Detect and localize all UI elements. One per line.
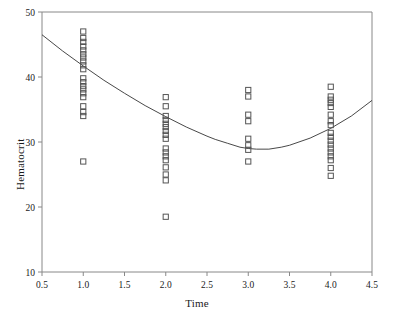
data-point-marker [328,134,333,139]
y-axis-title: Hematocrit [14,139,26,190]
fitted-curve [42,35,372,149]
data-point-marker [246,87,251,92]
y-axis-ticks: 1020304050 [26,8,43,278]
data-point-marker [163,146,168,151]
data-point-marker [81,55,86,60]
data-point-marker [163,136,168,141]
hematocrit-vs-time-chart: 0.51.01.52.02.53.03.54.04.5 1020304050 T… [0,0,394,325]
x-tick-label: 4.5 [366,280,378,290]
data-point-marker [81,29,86,34]
data-point-marker [328,112,333,117]
data-point-marker [328,97,333,102]
x-tick-label: 1.5 [119,280,131,290]
data-point-marker [328,138,333,143]
data-point-marker [328,130,333,135]
data-point-marker [81,84,86,89]
data-point-marker [328,158,333,163]
y-tick-label: 20 [26,203,36,213]
data-point-marker [246,136,251,141]
data-point-marker [163,117,168,122]
data-point-marker [163,121,168,126]
data-point-marker [163,128,168,133]
x-tick-label: 2.0 [160,280,172,290]
plot-frame [42,12,372,272]
x-tick-label: 3.5 [284,280,296,290]
data-point-marker [163,165,168,170]
data-point-marker [163,172,168,177]
x-tick-label: 3.0 [242,280,254,290]
data-point-marker [328,104,333,109]
x-tick-label: 2.5 [201,280,213,290]
data-point-marker [163,214,168,219]
data-point-marker [163,150,168,155]
y-tick-label: 30 [26,138,36,148]
data-point-marker [163,178,168,183]
data-point-marker [81,48,86,53]
data-point-marker [328,100,333,105]
y-tick-label: 50 [26,8,36,18]
data-point-marker [81,59,86,64]
data-point-marker [246,159,251,164]
x-axis-ticks: 0.51.01.52.02.53.03.54.04.5 [36,272,378,290]
data-point-marker [246,119,251,124]
data-point-marker [163,132,168,137]
data-point-marker [163,124,168,129]
x-tick-label: 0.5 [36,280,48,290]
data-point-marker [328,142,333,147]
data-point-marker [81,95,86,100]
y-tick-label: 40 [26,73,36,83]
plot-canvas: 0.51.01.52.02.53.03.54.04.5 1020304050 [0,0,394,325]
scatter-points [81,29,334,219]
y-tick-label: 10 [26,268,36,278]
data-point-marker [163,158,168,163]
x-axis-title: Time [0,297,394,309]
data-point-marker [163,104,168,109]
data-point-marker [246,112,251,117]
data-point-marker [81,52,86,57]
data-point-marker [81,91,86,96]
data-point-marker [81,87,86,92]
data-point-marker [246,94,251,99]
data-point-marker [328,154,333,159]
data-point-marker [81,104,86,109]
data-point-marker [328,84,333,89]
data-point-marker [328,119,333,124]
data-point-marker [163,154,168,159]
data-point-marker [163,95,168,100]
data-point-marker [328,146,333,151]
data-point-marker [81,159,86,164]
data-point-marker [81,80,86,85]
data-point-marker [328,173,333,178]
x-tick-label: 1.0 [77,280,89,290]
data-point-marker [328,150,333,155]
data-point-marker [328,94,333,99]
data-point-marker [328,165,333,170]
data-point-marker [81,113,86,118]
data-point-marker [81,35,86,40]
data-point-marker [81,110,86,115]
x-tick-label: 4.0 [325,280,337,290]
data-point-marker [81,76,86,81]
